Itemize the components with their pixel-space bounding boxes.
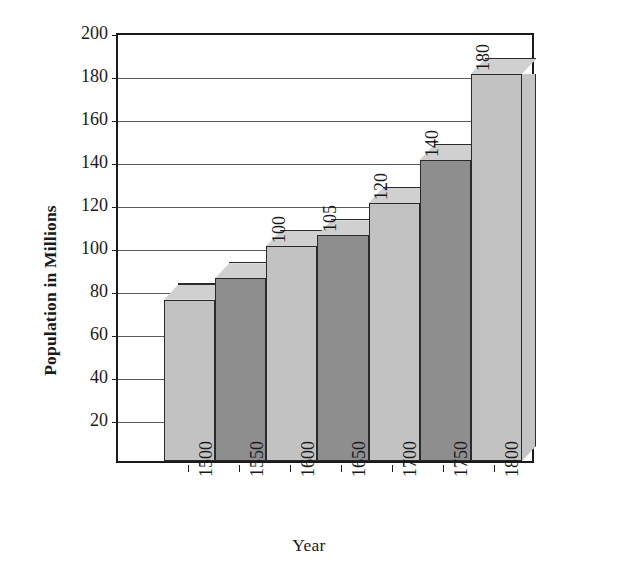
x-tick-label: 1700 [401, 441, 419, 477]
bar-data-label: 120 [372, 173, 390, 200]
bar-data-label: 140 [423, 130, 441, 157]
x-axis-tick-labels: 1500155016001650170017501800 [0, 0, 618, 575]
x-tick-label: 1650 [350, 441, 368, 477]
x-tick-label: 1500 [197, 441, 215, 477]
x-tick-mark [188, 465, 189, 472]
bar-data-label: 180 [474, 44, 492, 71]
x-tick-mark [494, 465, 495, 472]
x-tick-label: 1600 [299, 441, 317, 477]
x-tick-mark [443, 465, 444, 472]
bar-data-label: 100 [270, 216, 288, 243]
x-tick-mark [239, 465, 240, 472]
x-tick-mark [392, 465, 393, 472]
chart-canvas: Population in Millions 20018016014012010… [0, 0, 618, 575]
x-axis-title: Year [0, 535, 618, 556]
bar-data-label: 105 [321, 205, 339, 232]
x-tick-label: 1750 [452, 441, 470, 477]
x-tick-label: 1550 [248, 441, 266, 477]
x-tick-mark [290, 465, 291, 472]
x-tick-mark [341, 465, 342, 472]
x-tick-label: 1800 [503, 441, 521, 477]
